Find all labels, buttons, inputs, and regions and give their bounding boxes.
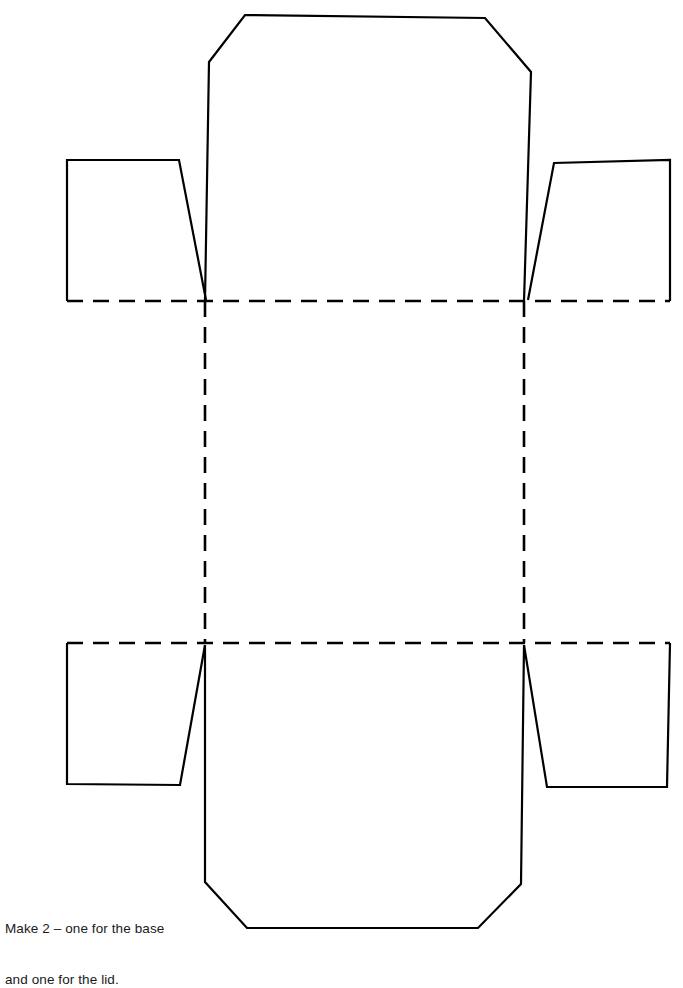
caption-line-2: and one for the lid. xyxy=(5,971,164,988)
instruction-caption: Make 2 – one for the base and one for th… xyxy=(5,886,164,988)
caption-line-1: Make 2 – one for the base xyxy=(5,920,164,937)
